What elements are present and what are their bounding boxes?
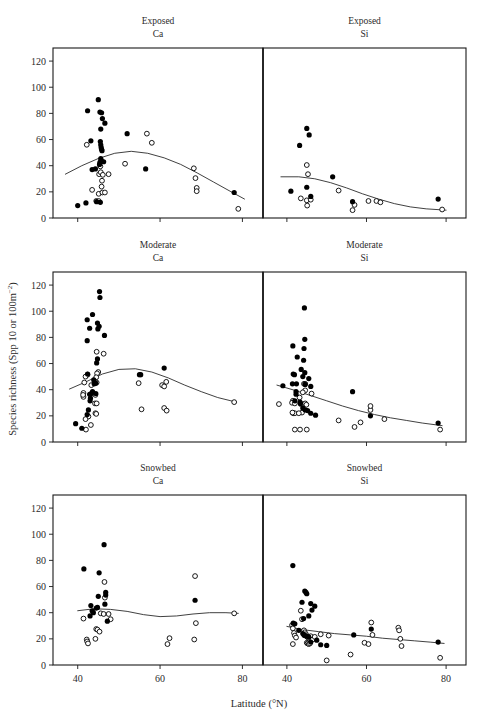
data-point-filled (85, 338, 90, 343)
data-point-filled (436, 640, 441, 645)
data-point-open (102, 190, 107, 195)
data-point-filled (95, 605, 100, 610)
panel-content (78, 542, 239, 646)
data-point-open (165, 642, 170, 647)
data-point-open (348, 652, 353, 657)
data-point-filled (86, 407, 91, 412)
y-tick-label: 120 (31, 280, 46, 291)
data-point-filled (90, 312, 95, 317)
data-point-open (290, 642, 295, 647)
panel-title-substrate: Si (361, 29, 369, 39)
data-point-filled (297, 143, 302, 148)
data-point-filled (73, 421, 78, 426)
data-point-open (94, 349, 99, 354)
data-point-open (82, 380, 87, 385)
data-point-filled (350, 199, 355, 204)
data-point-filled (81, 566, 86, 571)
y-tick-label: 40 (36, 384, 46, 395)
data-point-filled (83, 200, 88, 205)
x-tick-label: 80 (237, 673, 247, 684)
data-point-open (290, 410, 295, 415)
panel-title-habitat: Exposed (348, 16, 381, 26)
svg-text:Species richness (Spp 10 or 10: Species richness (Spp 10 or 100m−2) (6, 282, 19, 436)
data-point-open (366, 199, 371, 204)
data-point-open (298, 608, 303, 613)
data-point-open (324, 658, 329, 663)
panel-content (69, 289, 236, 432)
data-point-open (397, 628, 402, 633)
data-point-filled (290, 563, 295, 568)
panel-frame (53, 48, 263, 218)
data-point-filled (304, 126, 309, 131)
data-point-filled (102, 602, 107, 607)
data-point-filled (87, 326, 92, 331)
data-point-open (192, 637, 197, 642)
panel-title-substrate: Ca (153, 29, 164, 39)
data-point-filled (93, 166, 98, 171)
panel-title-habitat: Moderate (140, 240, 176, 250)
data-point-filled (306, 376, 311, 381)
data-point-filled (97, 289, 102, 294)
y-tick-label: 0 (41, 437, 46, 448)
data-point-filled (292, 621, 297, 626)
data-point-filled (330, 174, 335, 179)
panel-title-habitat: Moderate (346, 240, 382, 250)
data-point-open (318, 632, 323, 637)
y-tick-label: 100 (31, 529, 46, 540)
data-point-open (100, 172, 105, 177)
data-point-filled (304, 185, 309, 190)
data-point-filled (304, 591, 309, 596)
data-point-open (292, 427, 297, 432)
figure-svg: 020406080100120ExposedCaExposedSi0204060… (0, 0, 493, 719)
data-point-filled (87, 398, 92, 403)
data-point-filled (302, 305, 307, 310)
panel-moderate-si (263, 272, 466, 442)
data-point-filled (99, 148, 104, 153)
y-tick-label: 40 (36, 607, 46, 618)
data-point-open (164, 408, 169, 413)
data-point-open (290, 626, 295, 631)
data-point-open (167, 636, 172, 641)
panel-title-substrate: Si (361, 476, 369, 486)
panel-snowbed-si (263, 495, 466, 665)
panel-snowbed-ca (53, 495, 263, 665)
data-point-filled (88, 603, 93, 608)
data-point-filled (85, 317, 90, 322)
data-point-filled (96, 97, 101, 102)
data-point-open (97, 629, 102, 634)
data-point-open (236, 206, 241, 211)
panel-content (277, 305, 443, 432)
data-point-filled (292, 372, 297, 377)
data-point-filled (301, 616, 306, 621)
data-point-filled (97, 570, 102, 575)
labels-layer: 020406080100120ExposedCaExposedSi0204060… (31, 16, 451, 684)
data-point-open (136, 381, 141, 386)
data-point-open (194, 189, 199, 194)
data-point-filled (296, 628, 301, 633)
panel-title-substrate: Ca (153, 253, 164, 263)
y-axis-title-main: Species richness (Spp 10 or 100m (7, 293, 19, 436)
data-point-open (232, 400, 237, 405)
data-point-open (398, 636, 403, 641)
data-point-filled (308, 194, 313, 199)
panel-title-habitat: Snowbed (140, 463, 176, 473)
data-point-filled (436, 196, 441, 201)
data-point-filled (350, 389, 355, 394)
data-point-filled (100, 116, 105, 121)
data-point-open (88, 423, 93, 428)
data-point-filled (295, 354, 300, 359)
data-point-filled (313, 413, 318, 418)
data-point-open (438, 655, 443, 660)
data-point-filled (308, 640, 313, 645)
data-point-open (370, 633, 375, 638)
data-point-filled (162, 366, 167, 371)
x-tick-label: 60 (361, 673, 371, 684)
y-tick-label: 80 (36, 555, 46, 566)
data-point-filled (98, 126, 103, 131)
data-point-filled (85, 412, 90, 417)
data-point-open (399, 644, 404, 649)
data-point-open (378, 200, 383, 205)
data-point-open (305, 203, 310, 208)
data-point-open (368, 404, 373, 409)
data-point-open (191, 166, 196, 171)
